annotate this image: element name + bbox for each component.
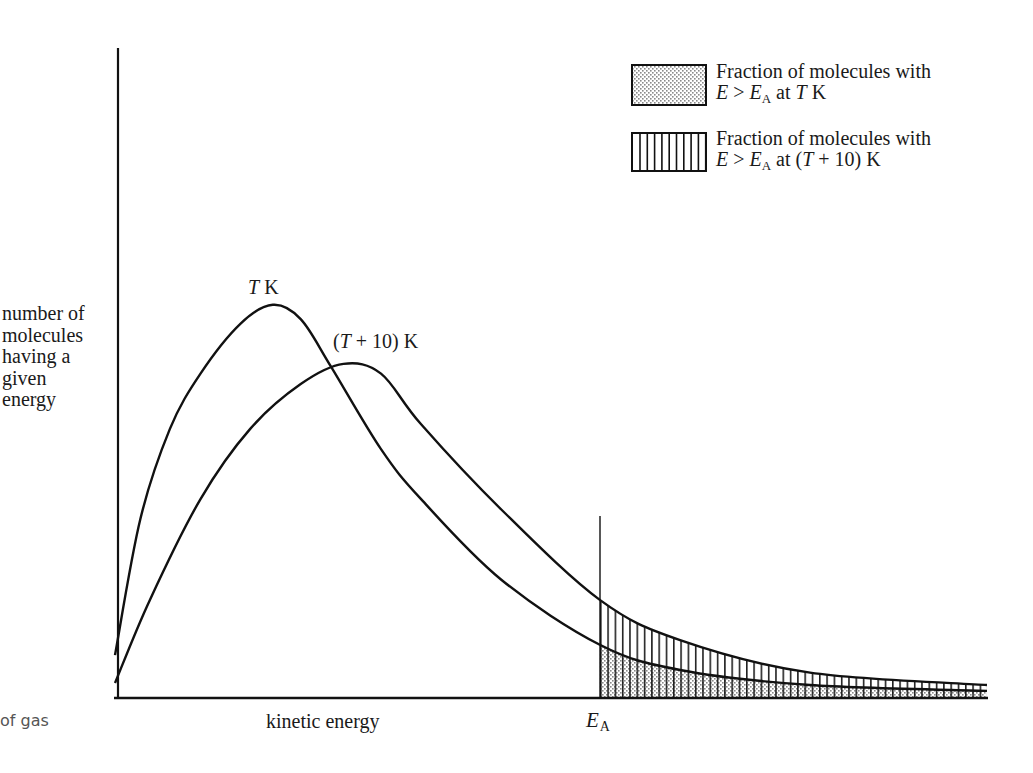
curve-t-kelvin [115,305,987,691]
curve-label-t-unit: K [259,276,278,298]
curve-label-t-plus-10: (T + 10) K [333,330,418,353]
legend-ea-sub: A [762,158,771,173]
y-axis-label-line: energy [2,389,85,411]
curve-label-t10-rest: + 10) K [351,330,418,352]
legend-at: at [771,148,795,170]
legend-at: at [771,81,795,103]
legend-temp-rest: + 10) K [813,148,880,170]
legend-temp-var: T [796,81,807,103]
legend-ea-sub: A [762,91,771,106]
ea-subscript: A [600,719,610,734]
legend-e: E [716,81,728,103]
legend-swatch-hatch [632,133,706,171]
chart-canvas [0,0,1033,773]
legend-ea: E [750,81,762,103]
legend-entry-t-line1: Fraction of molecules with [716,61,931,82]
curve-label-t10-var: T [340,330,351,352]
ea-symbol: E [586,708,599,732]
cropped-caption-fragment: of gas [0,711,49,730]
legend-entry-t-plus-10: Fraction of molecules with E > EA at (T … [716,128,931,176]
y-axis-label-line: given [2,368,85,390]
legend-entry-t10-line1: Fraction of molecules with [716,128,931,149]
legend-entry-t: Fraction of molecules with E > EA at T K [716,61,931,109]
legend-gt: > [728,148,749,170]
y-axis-label-line: having a [2,346,85,368]
legend-entry-t-line2: E > EA at T K [716,82,931,109]
curve-label-t: T K [248,276,279,299]
curve-label-open-paren: ( [333,330,340,352]
x-axis-label: kinetic energy [266,710,379,733]
ea-tick-label: EA [586,708,610,735]
legend-entry-t10-line2: E > EA at (T + 10) K [716,149,931,176]
legend-e: E [716,148,728,170]
legend-ea: E [750,148,762,170]
legend-gt: > [728,81,749,103]
legend-temp-var: T [802,148,813,170]
curve-t-plus-10-kelvin [115,363,987,685]
y-axis-label-line: molecules [2,325,85,347]
y-axis-label-line: number of [2,303,85,325]
legend-temp-rest: K [807,81,826,103]
curve-label-t-var: T [248,276,259,298]
legend-swatch-stipple [632,65,706,105]
y-axis-label: number of molecules having a given energ… [2,303,85,411]
